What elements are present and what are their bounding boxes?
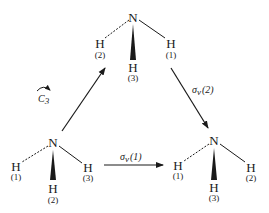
solid-bond <box>220 144 245 162</box>
dashed-bond <box>184 144 209 161</box>
wedge-bond <box>130 24 136 60</box>
hydrogen-index: (3) <box>83 173 94 183</box>
sigma-v2-arrow <box>171 68 208 128</box>
hydrogen-index: (1) <box>11 172 22 182</box>
hydrogen-index: (2) <box>95 50 106 60</box>
sigma-v1-label: σv(1) <box>120 151 142 164</box>
hydrogen-index: (1) <box>173 171 184 181</box>
nitrogen-atom: N <box>209 133 219 148</box>
molecule-bottom-left: N H (1) H (3) H (2) <box>11 135 94 205</box>
wedge-bond <box>50 150 56 180</box>
molecule-bottom-right: N H (1) H (2) H (3) <box>173 133 257 203</box>
dashed-bond <box>22 146 48 162</box>
hydrogen-index: (3) <box>128 73 139 83</box>
nitrogen-atom: N <box>48 135 58 150</box>
hydrogen-index: (1) <box>166 50 177 60</box>
rotation-arrow-icon <box>37 87 50 91</box>
c3-arrow <box>62 68 105 131</box>
hydrogen-atom: H <box>166 36 175 51</box>
c3-label: C3 <box>37 87 50 106</box>
nitrogen-atom: N <box>128 10 138 25</box>
molecule-top: N H (2) H (1) H (3) <box>95 10 177 83</box>
solid-bond <box>59 146 82 163</box>
hydrogen-index: (2) <box>246 173 257 183</box>
hydrogen-index: (2) <box>48 195 59 205</box>
dashed-bond <box>105 20 129 38</box>
hydrogen-atom: H <box>48 181 57 196</box>
hydrogen-atom: H <box>95 36 104 51</box>
solid-bond <box>139 20 165 38</box>
hydrogen-index: (3) <box>209 193 220 203</box>
symmetry-operations-diagram: N H (2) H (1) H (3) N H (1) H (3) H (2) … <box>0 0 269 213</box>
sigma-v2-label: σv(2) <box>192 84 214 97</box>
wedge-bond <box>211 148 217 180</box>
c3-symbol: C3 <box>38 93 50 106</box>
